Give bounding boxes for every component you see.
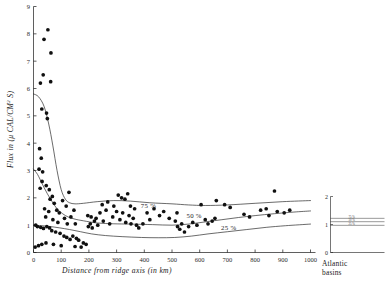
data-point — [203, 218, 207, 222]
data-point — [46, 117, 50, 121]
curve-label-25: 25 % — [221, 224, 236, 231]
data-point — [46, 28, 50, 32]
data-point — [47, 210, 51, 214]
data-point — [111, 215, 115, 219]
percentile-curve-75 — [34, 94, 311, 206]
inset-caption-line1: Atlantic — [322, 259, 348, 268]
data-point — [173, 219, 177, 223]
y-axis-title-tail: S) — [6, 91, 15, 100]
data-point — [275, 210, 279, 214]
data-point — [73, 222, 77, 226]
data-point — [101, 219, 105, 223]
data-point — [120, 196, 124, 200]
data-point — [223, 203, 227, 207]
data-point — [63, 216, 67, 220]
x-tick-label: 600 — [195, 256, 205, 263]
data-point — [68, 238, 72, 242]
data-point — [44, 215, 48, 219]
data-point — [40, 180, 44, 184]
data-point — [214, 199, 218, 203]
atlantic-basins-inset: 01275 %50 %25 % — [325, 194, 385, 256]
data-point — [180, 222, 184, 226]
data-point — [36, 225, 40, 229]
x-tick-label: 500 — [167, 256, 177, 263]
data-point — [248, 215, 252, 219]
data-point — [118, 218, 122, 222]
data-point — [39, 156, 43, 160]
data-point — [65, 222, 69, 226]
x-tick-label: 700 — [223, 256, 233, 263]
data-point — [123, 197, 127, 201]
data-point — [40, 242, 44, 246]
x-tick-label: 100 — [56, 256, 66, 263]
data-point — [88, 222, 92, 226]
inset-caption-line2: basins — [322, 268, 342, 277]
data-point — [65, 236, 69, 240]
x-tick-label: 900 — [278, 256, 288, 263]
data-point — [56, 221, 60, 225]
y-tick-label: 7 — [27, 58, 31, 65]
data-point — [129, 222, 133, 226]
data-point — [191, 221, 195, 225]
data-point — [44, 184, 48, 188]
data-point — [175, 211, 179, 215]
x-tick-label: 0 — [32, 256, 35, 263]
x-tick-label: 400 — [139, 256, 149, 263]
data-point — [96, 223, 100, 227]
curve-label-75: 75 % — [141, 202, 156, 209]
x-tick-label: 200 — [84, 256, 94, 263]
y-tick-label: 9 — [27, 3, 30, 10]
data-point — [43, 207, 47, 211]
data-point — [112, 204, 116, 208]
data-point — [126, 192, 130, 196]
data-point — [90, 226, 94, 230]
data-point — [199, 203, 203, 207]
data-point — [51, 218, 55, 222]
y-tick-label: 3 — [27, 167, 30, 174]
data-point — [47, 188, 51, 192]
data-point — [162, 210, 166, 214]
data-point — [45, 111, 49, 115]
y-tick-label: 2 — [27, 194, 30, 201]
data-point — [195, 223, 199, 227]
data-point — [86, 214, 90, 218]
data-point — [54, 230, 58, 234]
inset-level-label: 25 % — [349, 222, 356, 226]
x-tick-label: 800 — [250, 256, 260, 263]
data-point — [38, 186, 42, 190]
data-point — [115, 210, 119, 214]
data-point — [41, 73, 45, 77]
x-axis-title: Distance from ridge axis (in km) — [61, 266, 172, 275]
data-point — [264, 207, 268, 211]
data-point — [288, 208, 292, 212]
y-axis-title: Flux in (μ CAL/CM2 S) — [6, 91, 15, 169]
data-point — [183, 230, 187, 234]
axes-layer: 0100200300400500600700800900100001234567… — [27, 3, 317, 263]
data-point — [71, 234, 75, 238]
data-point — [39, 81, 43, 85]
data-point — [104, 208, 108, 212]
data-point — [48, 197, 52, 201]
data-point — [57, 211, 61, 215]
data-point — [124, 221, 128, 225]
data-point — [206, 222, 210, 226]
data-point — [59, 244, 63, 248]
data-point — [42, 37, 46, 41]
data-point — [64, 204, 68, 208]
data-point — [50, 229, 54, 233]
data-point — [213, 216, 217, 220]
data-point — [37, 167, 41, 171]
data-point — [58, 232, 62, 236]
data-point — [33, 245, 37, 249]
data-point — [116, 193, 120, 197]
data-point — [61, 199, 65, 203]
data-point — [49, 51, 53, 55]
data-point — [52, 201, 56, 205]
data-point — [148, 218, 152, 222]
data-point — [41, 170, 45, 174]
data-point — [98, 211, 102, 215]
y-tick-label: 4 — [27, 140, 31, 147]
data-point — [49, 80, 53, 84]
data-point — [187, 225, 191, 229]
curve-label-50: 50 % — [186, 212, 201, 219]
